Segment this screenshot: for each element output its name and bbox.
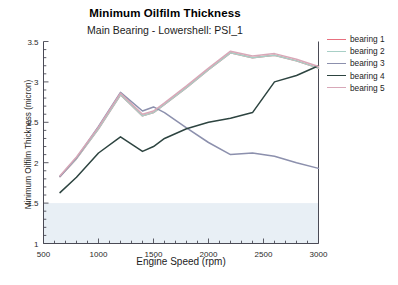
legend-item-label: bearing 5 bbox=[350, 83, 385, 93]
legend-item-bearing-4[interactable]: bearing 4 bbox=[327, 70, 398, 82]
svg-text:2000: 2000 bbox=[200, 250, 218, 259]
legend-color-swatch bbox=[327, 75, 346, 76]
svg-text:2500: 2500 bbox=[255, 250, 273, 259]
legend-color-swatch bbox=[327, 63, 346, 64]
legend-item-label: bearing 1 bbox=[350, 34, 385, 44]
chart-legend: bearing 1bearing 2bearing 3bearing 4bear… bbox=[327, 33, 398, 94]
svg-text:1.5: 1.5 bbox=[27, 199, 39, 208]
svg-text:2: 2 bbox=[34, 159, 39, 168]
legend-item-label: bearing 4 bbox=[350, 71, 385, 81]
data-series bbox=[60, 51, 319, 192]
svg-text:500: 500 bbox=[37, 250, 51, 259]
svg-text:2.5: 2.5 bbox=[27, 118, 39, 127]
legend-item-bearing-1[interactable]: bearing 1 bbox=[327, 33, 398, 45]
svg-text:3.5: 3.5 bbox=[27, 38, 39, 47]
series-line-bearing-3 bbox=[60, 92, 319, 176]
legend-color-swatch bbox=[327, 39, 346, 40]
svg-text:1000: 1000 bbox=[90, 250, 108, 259]
svg-text:3: 3 bbox=[34, 78, 39, 87]
legend-item-bearing-5[interactable]: bearing 5 bbox=[327, 82, 398, 94]
limit-band bbox=[44, 203, 319, 243]
chart-container: Minimum Oilfilm Thickness Main Bearing -… bbox=[0, 0, 398, 285]
svg-text:1500: 1500 bbox=[145, 250, 163, 259]
series-line-bearing-5 bbox=[60, 51, 319, 175]
legend-item-label: bearing 3 bbox=[350, 58, 385, 68]
legend-item-bearing-2[interactable]: bearing 2 bbox=[327, 45, 398, 57]
legend-color-swatch bbox=[327, 51, 346, 52]
legend-item-label: bearing 2 bbox=[350, 46, 385, 56]
svg-text:3000: 3000 bbox=[310, 250, 328, 259]
legend-color-swatch bbox=[327, 87, 346, 88]
legend-item-bearing-3[interactable]: bearing 3 bbox=[327, 57, 398, 69]
svg-text:1: 1 bbox=[34, 240, 39, 249]
